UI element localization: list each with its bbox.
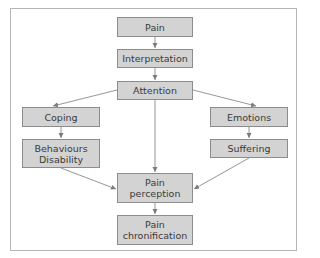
node-pain-chronification: Pain chronification xyxy=(117,215,193,245)
node-interpretation: Interpretation xyxy=(117,49,193,68)
node-behaviours-disability: Behaviours Disability xyxy=(22,139,100,168)
node-pain-perception: Pain perception xyxy=(117,173,193,203)
edge-behaviours-perception xyxy=(61,168,116,189)
node-pain: Pain xyxy=(117,17,193,37)
node-attention: Attention xyxy=(117,81,193,100)
node-coping: Coping xyxy=(22,107,100,127)
edge-suffering-perception xyxy=(194,158,249,189)
edge-attention-coping xyxy=(53,90,117,106)
edge-attention-emotions xyxy=(193,90,256,106)
node-suffering: Suffering xyxy=(210,139,288,158)
node-emotions: Emotions xyxy=(210,107,288,127)
